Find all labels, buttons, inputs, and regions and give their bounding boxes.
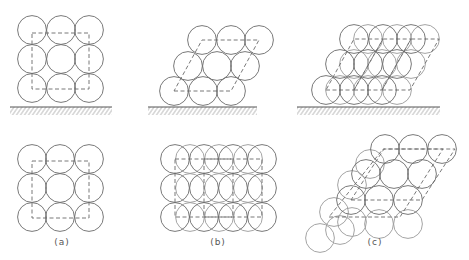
sphere [380, 160, 409, 189]
unit-cell-outline [382, 39, 439, 90]
panel-label-a: (a) [54, 237, 70, 247]
panels-layer [10, 16, 456, 253]
sphere [18, 16, 47, 45]
panel-b-top-view [148, 26, 273, 115]
sphere [75, 16, 104, 45]
ground-hatching [10, 107, 112, 115]
panel-a [10, 16, 112, 232]
back-layer-sphere [306, 224, 335, 253]
sphere [47, 74, 76, 103]
sphere [408, 160, 437, 189]
panel-b-bottom-view [161, 145, 277, 232]
panel-c-top-view [297, 25, 440, 115]
unit-cell-outline [329, 149, 443, 217]
back-layer-sphere [320, 198, 349, 227]
unit-cell-outline [174, 40, 259, 91]
ground-hatching [297, 107, 440, 115]
sphere [18, 145, 47, 174]
back-layer-sphere [394, 210, 423, 239]
figure-canvas [0, 0, 469, 260]
sphere [203, 52, 232, 81]
sphere [46, 174, 75, 203]
panel-b [148, 26, 276, 232]
sphere [47, 45, 76, 74]
back-layer-sphere [365, 210, 394, 239]
ground-hatching [148, 107, 257, 115]
panel-label-b: (b) [210, 237, 226, 247]
sphere [47, 16, 76, 45]
unit-cell-outline [32, 161, 89, 218]
panel-label-c: (c) [368, 237, 383, 247]
sphere [46, 145, 75, 174]
panel-a-top-view [10, 16, 112, 115]
panel-c [297, 25, 456, 253]
panel-c-bottom-view [306, 135, 457, 253]
panel-a-bottom-view [18, 145, 104, 232]
sphere [46, 203, 75, 232]
